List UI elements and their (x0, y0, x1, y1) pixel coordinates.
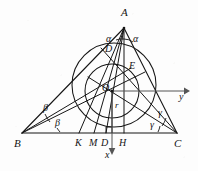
apex-dot (123, 27, 126, 30)
point-label-d-base: D (101, 138, 108, 148)
angle-label-gamma-lower: γ (150, 120, 154, 130)
arc-alpha-right (124, 39, 133, 42)
angle-label-gamma-upper: γ (158, 108, 162, 118)
vertex-label-b: B (14, 138, 21, 149)
angle-label-alpha-left: α (106, 34, 111, 44)
point-label-k: K (75, 138, 82, 148)
arc-beta-lower (57, 128, 60, 132)
vertex-label-a: A (121, 7, 128, 18)
bisector-b-e (22, 72, 145, 133)
point-label-h: H (119, 138, 126, 148)
incenter-dot (110, 89, 113, 92)
figure-canvas (0, 0, 198, 171)
angle-label-beta-lower: β (55, 118, 60, 128)
y-axis-arrowhead (184, 88, 190, 95)
x-axis-label: x (105, 150, 109, 160)
point-label-d-upper: D (105, 44, 112, 54)
side-ac (124, 28, 177, 133)
point-label-o: O (102, 83, 109, 93)
x-axis-arrowhead (109, 148, 116, 155)
y-axis-label: y (179, 92, 183, 102)
triangle-abc (22, 28, 177, 133)
arc-alpha-left (116, 39, 124, 40)
arc-gamma-lower (158, 126, 160, 132)
point-label-m: M (89, 138, 97, 148)
angle-label-beta-upper: β (43, 103, 48, 113)
geometry-figure: A B C D E O K M D H α α β β γ γ r x y (0, 0, 198, 171)
vertex-label-c: C (174, 138, 181, 149)
inradius-label: r (115, 101, 119, 110)
angle-label-alpha-right: α (133, 34, 138, 44)
point-label-e: E (129, 61, 135, 71)
